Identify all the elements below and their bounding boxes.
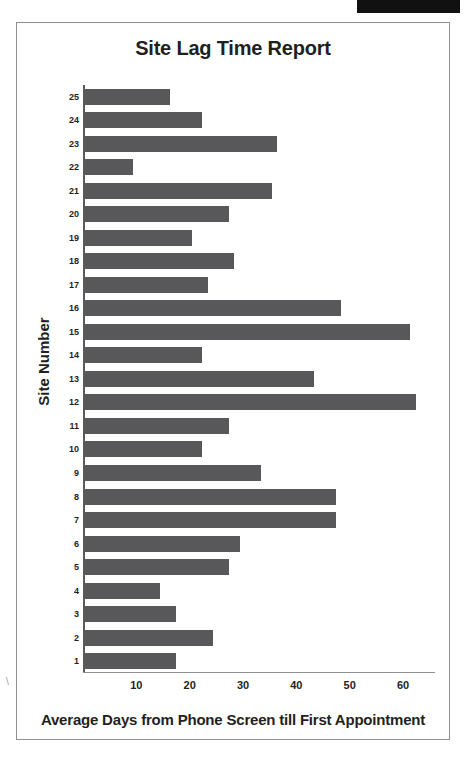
bar-row: 23 bbox=[85, 132, 435, 156]
bar-row: 8 bbox=[85, 485, 435, 509]
bar bbox=[85, 206, 229, 222]
bar-row: 1 bbox=[85, 649, 435, 673]
bar-category-label: 5 bbox=[57, 562, 79, 572]
bar-category-label: 2 bbox=[57, 633, 79, 643]
bar bbox=[85, 512, 336, 528]
stray-mark: \ bbox=[6, 676, 9, 687]
bar bbox=[85, 394, 416, 410]
bar-row: 21 bbox=[85, 179, 435, 203]
bar bbox=[85, 112, 202, 128]
bar-row: 14 bbox=[85, 344, 435, 368]
bar-category-label: 22 bbox=[57, 162, 79, 172]
bar bbox=[85, 371, 314, 387]
bar-row: 18 bbox=[85, 250, 435, 274]
x-tick-label: 40 bbox=[290, 679, 302, 691]
bar-category-label: 9 bbox=[57, 468, 79, 478]
bar-category-label: 11 bbox=[57, 421, 79, 431]
bar bbox=[85, 324, 410, 340]
x-tick-label: 20 bbox=[184, 679, 196, 691]
bar-category-label: 23 bbox=[57, 139, 79, 149]
bar bbox=[85, 347, 202, 363]
bar-category-label: 12 bbox=[57, 397, 79, 407]
bar-row: 11 bbox=[85, 414, 435, 438]
bar-row: 24 bbox=[85, 109, 435, 133]
x-tick-label: 50 bbox=[344, 679, 356, 691]
bar bbox=[85, 606, 176, 622]
bar-category-label: 19 bbox=[57, 233, 79, 243]
bar-row: 13 bbox=[85, 367, 435, 391]
bar-category-label: 17 bbox=[57, 280, 79, 290]
chart-title: Site Lag Time Report bbox=[17, 37, 449, 60]
x-tick-label: 10 bbox=[130, 679, 142, 691]
bar-row: 3 bbox=[85, 602, 435, 626]
bar-category-label: 25 bbox=[57, 92, 79, 102]
bar-row: 19 bbox=[85, 226, 435, 250]
y-axis-title: Site Number bbox=[35, 272, 52, 452]
bar-row: 17 bbox=[85, 273, 435, 297]
bar-series: 1234567891011121314151617181920212223242… bbox=[85, 85, 435, 673]
bar bbox=[85, 253, 234, 269]
bar-row: 20 bbox=[85, 203, 435, 227]
bar-category-label: 7 bbox=[57, 515, 79, 525]
bar-category-label: 15 bbox=[57, 327, 79, 337]
bar-category-label: 8 bbox=[57, 492, 79, 502]
x-axis-title: Average Days from Phone Screen till Firs… bbox=[17, 711, 449, 728]
bar bbox=[85, 441, 202, 457]
bar-category-label: 24 bbox=[57, 115, 79, 125]
bar-row: 7 bbox=[85, 508, 435, 532]
redaction-bar bbox=[357, 0, 460, 13]
bar bbox=[85, 583, 160, 599]
bar bbox=[85, 418, 229, 434]
x-tick-label: 60 bbox=[397, 679, 409, 691]
bar bbox=[85, 277, 208, 293]
bar-row: 6 bbox=[85, 532, 435, 556]
x-axis-ticks: 102030405060 bbox=[83, 679, 435, 701]
bar-category-label: 10 bbox=[57, 444, 79, 454]
plot-area: 1234567891011121314151617181920212223242… bbox=[83, 85, 435, 673]
bar-row: 25 bbox=[85, 85, 435, 109]
bar bbox=[85, 230, 192, 246]
bar-row: 10 bbox=[85, 438, 435, 462]
bar bbox=[85, 489, 336, 505]
chart-frame: Site Lag Time Report Site Number 1234567… bbox=[16, 22, 450, 740]
bar bbox=[85, 536, 240, 552]
bar bbox=[85, 300, 341, 316]
bar bbox=[85, 183, 272, 199]
bar-category-label: 21 bbox=[57, 186, 79, 196]
bar bbox=[85, 89, 170, 105]
bar-row: 22 bbox=[85, 156, 435, 180]
bar bbox=[85, 136, 277, 152]
bar-category-label: 4 bbox=[57, 586, 79, 596]
bar-category-label: 3 bbox=[57, 609, 79, 619]
bar-row: 2 bbox=[85, 626, 435, 650]
bar-category-label: 6 bbox=[57, 539, 79, 549]
bar-category-label: 1 bbox=[57, 656, 79, 666]
bar-category-label: 13 bbox=[57, 374, 79, 384]
bar-row: 16 bbox=[85, 297, 435, 321]
bar-category-label: 18 bbox=[57, 256, 79, 266]
bar bbox=[85, 465, 261, 481]
x-tick-label: 30 bbox=[237, 679, 249, 691]
bar bbox=[85, 653, 176, 669]
bar-row: 9 bbox=[85, 461, 435, 485]
bar-row: 4 bbox=[85, 579, 435, 603]
bar-row: 12 bbox=[85, 391, 435, 415]
bar bbox=[85, 559, 229, 575]
bar bbox=[85, 630, 213, 646]
bar-row: 5 bbox=[85, 555, 435, 579]
bar bbox=[85, 159, 133, 175]
bar-category-label: 16 bbox=[57, 303, 79, 313]
bar-category-label: 20 bbox=[57, 209, 79, 219]
bar-row: 15 bbox=[85, 320, 435, 344]
bar-category-label: 14 bbox=[57, 350, 79, 360]
